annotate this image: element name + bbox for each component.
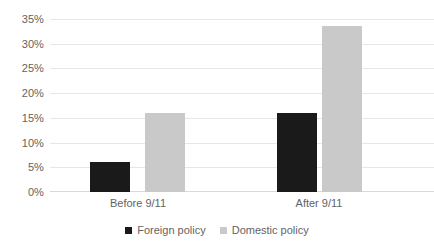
y-axis-tick-label: 30% (0, 39, 44, 50)
y-axis-tick-label: 0% (0, 187, 44, 198)
x-axis: Before 9/11 After 9/11 (50, 196, 434, 216)
chart-legend: Foreign policy Domestic policy (0, 224, 434, 236)
y-axis-tick-label: 5% (0, 162, 44, 173)
y-axis-tick-label: 20% (0, 88, 44, 99)
y-axis-tick-label: 25% (0, 63, 44, 74)
legend-item-domestic-policy[interactable]: Domestic policy (220, 224, 309, 236)
plot-area (50, 19, 434, 192)
gridline-15 (50, 118, 434, 119)
x-axis-label-after: After 9/11 (259, 196, 379, 210)
legend-label-foreign-policy: Foreign policy (137, 224, 205, 236)
legend-swatch-icon (125, 227, 132, 234)
gridline-10 (50, 143, 434, 144)
y-axis-tick-label: 10% (0, 138, 44, 149)
gridline-20 (50, 93, 434, 94)
bar-foreign-after[interactable] (277, 113, 317, 192)
x-axis-label-before: Before 9/11 (78, 196, 198, 210)
gridline-30 (50, 44, 434, 45)
gridline-25 (50, 68, 434, 69)
y-axis-tick-label: 35% (0, 14, 44, 25)
gridline-35 (50, 19, 434, 20)
y-axis-tick-label: 15% (0, 113, 44, 124)
bar-domestic-after[interactable] (322, 26, 362, 192)
y-axis: 35% 30% 25% 20% 15% 10% 5% 0% (0, 0, 44, 200)
legend-item-foreign-policy[interactable]: Foreign policy (125, 224, 205, 236)
legend-label-domestic-policy: Domestic policy (232, 224, 309, 236)
bar-chart: 35% 30% 25% 20% 15% 10% 5% 0% Before 9/1… (0, 0, 434, 247)
legend-swatch-icon (220, 227, 227, 234)
bar-foreign-before[interactable] (90, 162, 130, 192)
bar-domestic-before[interactable] (145, 113, 185, 192)
